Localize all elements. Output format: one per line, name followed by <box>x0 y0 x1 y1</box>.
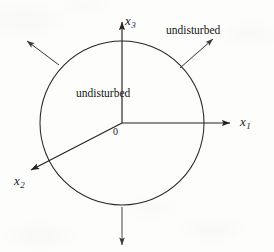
axis-label-x2: x2 <box>14 174 25 190</box>
outward-arrow-upper-left <box>27 41 59 65</box>
axis-label-x1: x1 <box>240 115 251 131</box>
axis-x2-line <box>31 123 122 170</box>
origin-label: 0 <box>113 127 118 137</box>
region-label-outer: undisturbed <box>166 25 220 37</box>
diagram-canvas <box>0 0 274 252</box>
region-label-inner: undisturbed <box>76 88 130 100</box>
outward-arrow-upper-right <box>180 39 213 68</box>
figure-caption-remnant <box>0 242 274 252</box>
axis-label-x3: x3 <box>125 14 136 30</box>
figure-container: x1 x2 x3 0 undisturbed undisturbed <box>0 0 274 252</box>
